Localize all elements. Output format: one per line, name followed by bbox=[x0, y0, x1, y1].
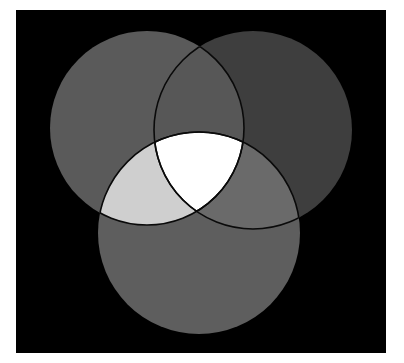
venn-diagram bbox=[0, 0, 404, 363]
venn-diagram-canvas bbox=[0, 0, 404, 363]
